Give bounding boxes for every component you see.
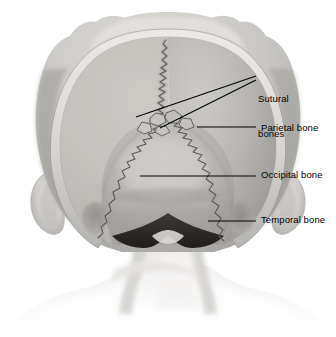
label-occipital-bone: Occipital bone: [261, 169, 323, 181]
label-sutural-bones: Sutural bones: [258, 70, 289, 162]
label-parietal-bone: Parietal bone: [261, 122, 318, 134]
anatomy-figure: Sutural bones Parietal bone Occipital bo…: [0, 0, 336, 337]
label-temporal-bone: Temporal bone: [261, 214, 325, 226]
label-sutural-bones-line1: Sutural: [258, 93, 289, 105]
